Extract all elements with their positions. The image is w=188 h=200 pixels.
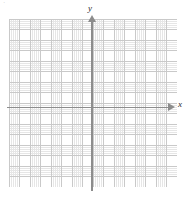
y-axis-label: y (88, 3, 92, 13)
arrow-right-icon (168, 103, 175, 111)
x-axis-label: x (178, 99, 182, 109)
y-axis-line (91, 19, 92, 191)
graph-grid (9, 19, 177, 187)
corner-artifact-mark: · (3, 0, 7, 7)
coordinate-plane-figure: · x y (0, 0, 188, 200)
x-axis-line (7, 107, 170, 108)
arrow-up-icon (88, 15, 96, 22)
